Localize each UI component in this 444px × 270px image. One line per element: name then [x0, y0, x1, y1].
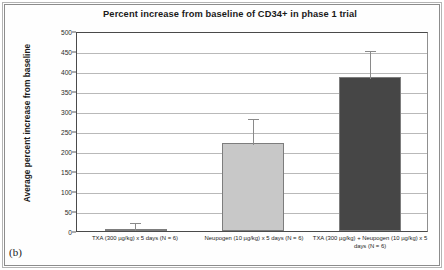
- y-axis-title: Average percent increase from baseline: [22, 33, 32, 213]
- x-label-bar-1: TXA (300 µg/kg) x 5 days (N = 6): [70, 234, 200, 242]
- error-bar-cap-1: [130, 223, 141, 224]
- x-label-bar-3: TXA (300 µg/kg) + Neupogen (10 µg/kg) x …: [302, 234, 438, 250]
- y-tick-label-100: 100: [42, 189, 72, 196]
- error-bar-cap-2: [248, 119, 259, 120]
- plot-area: [76, 32, 428, 232]
- y-tick-mark-350: [72, 92, 76, 93]
- gridline-400: [77, 73, 427, 74]
- error-bar-line-1: [135, 223, 136, 231]
- bar-2: [222, 143, 284, 231]
- x-axis-labels: TXA (300 µg/kg) x 5 days (N = 6) Neupoge…: [76, 234, 428, 264]
- y-tick-label-450: 450: [42, 49, 72, 56]
- error-bar-cap-3: [365, 51, 376, 52]
- y-tick-label-500: 500: [42, 29, 72, 36]
- y-tick-label-350: 350: [42, 89, 72, 96]
- figure-panel: Percent increase from baseline of CD34+ …: [0, 0, 444, 270]
- y-tick-mark-200: [72, 152, 76, 153]
- error-bar-line-3: [370, 51, 371, 79]
- y-tick-mark-100: [72, 192, 76, 193]
- error-bar-line-2: [253, 119, 254, 145]
- y-tick-mark-0: [72, 232, 76, 233]
- y-tick-label-50: 50: [42, 209, 72, 216]
- y-tick-mark-50: [72, 212, 76, 213]
- chart-title: Percent increase from baseline of CD34+ …: [30, 9, 430, 19]
- y-tick-label-0: 0: [42, 229, 72, 236]
- y-tick-label-250: 250: [42, 129, 72, 136]
- y-tick-label-150: 150: [42, 169, 72, 176]
- y-tick-label-200: 200: [42, 149, 72, 156]
- bar-3: [339, 77, 401, 231]
- y-tick-mark-150: [72, 172, 76, 173]
- y-tick-mark-450: [72, 52, 76, 53]
- y-tick-mark-250: [72, 132, 76, 133]
- y-tick-label-300: 300: [42, 109, 72, 116]
- y-tick-mark-300: [72, 112, 76, 113]
- y-tick-mark-400: [72, 72, 76, 73]
- y-tick-label-400: 400: [42, 69, 72, 76]
- gridline-450: [77, 53, 427, 54]
- y-tick-mark-500: [72, 32, 76, 33]
- panel-letter: (b): [9, 246, 22, 258]
